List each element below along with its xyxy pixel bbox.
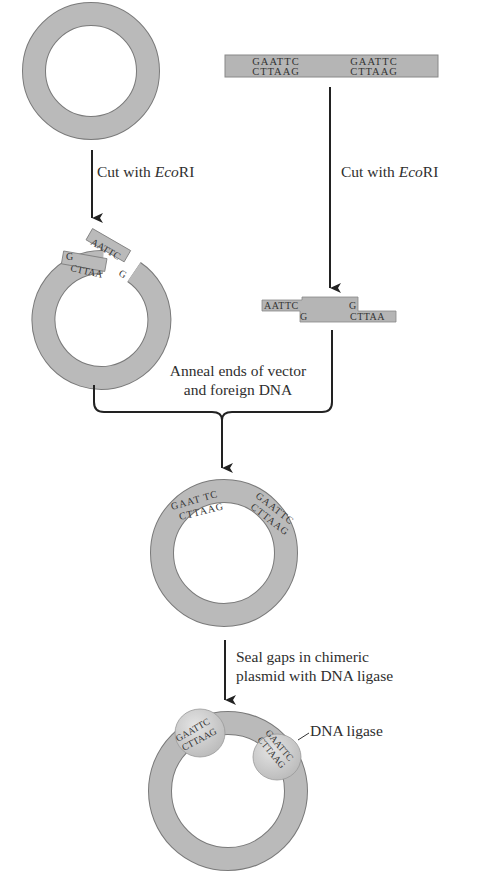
cut-vector-right-bottom: G: [117, 267, 129, 280]
seal-line-1: Seal gaps in chimeric: [236, 647, 393, 666]
diagram-canvas: GAATTC CTTAAG GAATTC CTTAAG G CTTAA AATT…: [0, 0, 477, 886]
plasmid-vector: [34, 14, 148, 128]
label-cut-vector: Cut with EcoRI: [97, 162, 194, 181]
fragment-right-top: G: [349, 300, 356, 311]
cut-vector-left-top: G: [66, 251, 73, 262]
label-anneal: Anneal ends of vector and foreign DNA: [128, 361, 348, 399]
label-seal: Seal gaps in chimeric plasmid with DNA l…: [236, 647, 393, 685]
ligated-plasmid: GAATTC CTTAAG GAATTC CTTAAG: [160, 709, 309, 859]
fragment-right-bottom: CTTAA: [350, 311, 385, 322]
foreign-dna: GAATTC CTTAAG GAATTC CTTAAG: [225, 55, 438, 77]
label-cut-foreign: Cut with EcoRI: [341, 162, 438, 181]
ligase-leader-line: [298, 733, 309, 740]
cut-fragment: AATTC G G CTTAA: [262, 297, 396, 322]
fragment-left-top: AATTC: [264, 300, 299, 311]
foreign-site2-bottom: CTTAAG: [350, 66, 398, 77]
foreign-site1-bottom: CTTAAG: [252, 66, 300, 77]
cut-vector: G CTTAA AATTC G: [43, 229, 159, 378]
annealed-plasmid: GAAT TC CTTAAG GAATTC CTTAAG: [162, 488, 296, 615]
anneal-line-1: Anneal ends of vector: [128, 361, 348, 380]
seal-line-2: plasmid with DNA ligase: [236, 666, 393, 685]
anneal-line-2: and foreign DNA: [128, 380, 348, 399]
fragment-left-bottom: G: [300, 311, 307, 322]
label-dna-ligase: DNA ligase: [310, 721, 383, 740]
